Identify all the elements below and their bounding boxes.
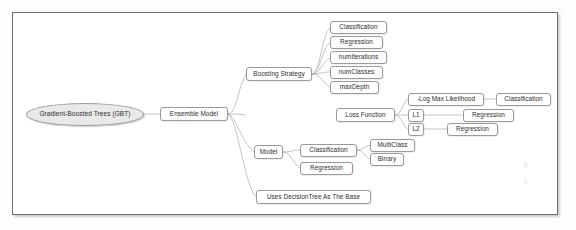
node-root[interactable]: Gradient-Boosted Trees (GBT) — [26, 103, 144, 126]
node-boosting-regression[interactable]: Regression — [330, 36, 383, 49]
node-l2-regression[interactable]: Regression — [447, 123, 498, 136]
node-loss-l2[interactable]: L2 — [408, 123, 424, 136]
diagram-canvas: Gradient-Boosted Trees (GBT) Ensemble Mo… — [0, 0, 576, 230]
node-model-regression[interactable]: Regression — [300, 162, 353, 175]
node-ensemble-model[interactable]: Ensemble Model — [160, 107, 228, 121]
node-l1-regression[interactable]: Regression — [463, 109, 514, 122]
node-loss-log-max-likelihood[interactable]: -Log Max Likelihood — [408, 93, 484, 106]
node-logmax-classification[interactable]: Classification — [496, 93, 551, 106]
node-model[interactable]: Model — [254, 145, 283, 159]
node-model-binary[interactable]: Binary — [370, 153, 404, 166]
node-boosting-maxdepth[interactable]: maxDepth — [330, 81, 379, 94]
node-uses-decisiontree[interactable]: Uses DecisionTree As The Base — [256, 190, 371, 204]
node-loss-l1[interactable]: L1 — [408, 109, 424, 122]
scan-artifact: ʂ — [524, 158, 528, 168]
node-boosting-classification[interactable]: Classification — [330, 21, 387, 34]
node-boosting-numiterations[interactable]: numIterations — [330, 51, 387, 64]
node-model-classification[interactable]: Classification — [300, 144, 357, 157]
node-loss-function[interactable]: Loss Function — [336, 108, 395, 122]
node-boosting-strategy[interactable]: Boosting Strategy — [246, 67, 312, 81]
node-model-multiclass[interactable]: MultiClass — [370, 139, 415, 152]
node-boosting-numclasses[interactable]: numClasses — [330, 66, 383, 79]
scan-artifact: · — [530, 4, 533, 14]
scan-artifact: ʅ — [524, 176, 528, 186]
